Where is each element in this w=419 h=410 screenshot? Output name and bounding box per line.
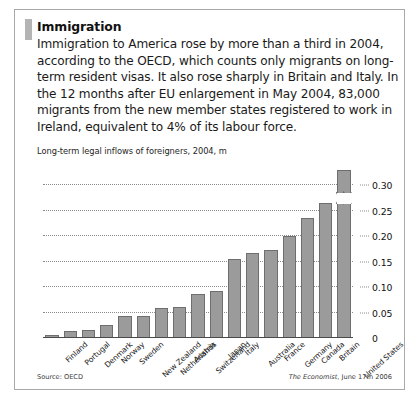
y-tick-dash — [360, 312, 369, 313]
bar-slot — [298, 170, 316, 338]
bar-slot — [280, 170, 298, 338]
bar-slot — [262, 170, 280, 338]
bar-new-zealand — [137, 316, 150, 338]
y-tick-label: 0.20 — [372, 231, 392, 242]
bar-slot — [225, 170, 243, 338]
axis-break-zigzag — [336, 191, 351, 205]
bar-slot — [43, 170, 61, 338]
bar-slot — [61, 170, 79, 338]
page-title: Immigration — [37, 19, 393, 34]
source-note: Source: OECD — [37, 373, 83, 381]
y-tick-dash — [360, 236, 369, 237]
article-body: Immigration to America rose by more than… — [37, 36, 399, 136]
bar-united-states — [337, 170, 350, 338]
y-tick-label: 0 — [372, 333, 378, 344]
y-tick-label: 0.15 — [372, 256, 392, 267]
y-tick-dash — [360, 287, 369, 288]
bar-switzerland — [191, 294, 204, 338]
bar-slot — [116, 170, 134, 338]
bar-slot — [335, 170, 353, 338]
bar-slot — [152, 170, 170, 338]
publication-date: , June 17th 2006 — [337, 373, 392, 381]
bar-australia — [246, 253, 259, 338]
y-tick-dash — [360, 185, 369, 186]
bar-britain — [319, 203, 332, 338]
y-tick-dash — [360, 261, 369, 262]
bar-slot — [244, 170, 262, 338]
y-tick-label: 0.10 — [372, 282, 392, 293]
bar-netherlands — [155, 308, 168, 338]
bar-sweden — [118, 316, 131, 338]
infographic-card: Immigration Immigration to America rose … — [14, 9, 405, 390]
publication-name: The Economist — [289, 373, 338, 381]
bar-slot — [98, 170, 116, 338]
bar-series — [43, 170, 353, 338]
bar-italy — [228, 259, 241, 338]
bar-slot — [207, 170, 225, 338]
bar-slot — [189, 170, 207, 338]
bar-germany — [283, 236, 296, 338]
bar-canada — [301, 218, 314, 338]
bar-france — [264, 250, 277, 338]
y-tick-dash — [360, 210, 369, 211]
publication-credit: The Economist, June 17th 2006 — [289, 373, 392, 381]
bar-slot — [317, 170, 335, 338]
bar-slot — [79, 170, 97, 338]
y-tick-label: 0.30 — [372, 180, 392, 191]
bar-slot — [134, 170, 152, 338]
y-axis: 00.050.100.150.200.250.30 — [360, 170, 419, 338]
accent-mark — [25, 19, 32, 40]
chart-title: Long-term legal inflows of foreigners, 2… — [37, 146, 227, 156]
bar-austria — [173, 307, 186, 338]
bar-slot — [171, 170, 189, 338]
chart-plot-area — [43, 170, 353, 338]
bar-japan — [210, 291, 223, 338]
y-tick-label: 0.05 — [372, 307, 392, 318]
x-axis-line — [43, 337, 353, 338]
y-tick-label: 0.25 — [372, 205, 392, 216]
